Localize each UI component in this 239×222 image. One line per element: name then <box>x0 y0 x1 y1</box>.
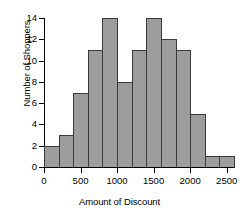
x-axis-tick-label: 2000 <box>170 176 210 186</box>
histogram-bar <box>117 82 133 168</box>
histogram-bar <box>88 50 104 168</box>
x-axis-tick <box>154 168 155 173</box>
histogram-bar <box>44 146 60 168</box>
histogram-bar <box>73 93 89 169</box>
x-axis-tick-label: 1500 <box>134 176 174 186</box>
x-axis-tick <box>227 168 228 173</box>
x-axis-tick <box>81 168 82 173</box>
histogram-bar <box>190 114 206 168</box>
histogram-bar <box>176 50 192 168</box>
x-axis-tick-label: 500 <box>61 176 101 186</box>
histogram-bar <box>146 18 162 168</box>
x-axis-tick-label: 2500 <box>207 176 239 186</box>
bars-layer <box>0 0 239 222</box>
histogram-bar <box>102 18 118 168</box>
x-axis-title: Amount of Discount <box>0 196 239 207</box>
x-axis-tick-label: 1000 <box>97 176 137 186</box>
histogram-bar <box>161 39 177 168</box>
histogram-bar <box>132 50 148 168</box>
histogram-chart: Number of Shoppers 02468101214 050010001… <box>0 0 239 222</box>
x-axis-tick <box>117 168 118 173</box>
x-axis-tick <box>44 168 45 173</box>
x-axis-tick <box>190 168 191 173</box>
histogram-bar <box>59 135 75 168</box>
x-axis-tick-label: 0 <box>24 176 64 186</box>
x-axis-line <box>44 167 234 168</box>
